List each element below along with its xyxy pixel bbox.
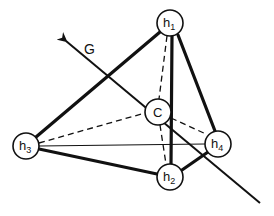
node-c: C bbox=[145, 99, 171, 125]
node-h3-label: h bbox=[19, 138, 26, 153]
edge-h3-h2 bbox=[39, 149, 157, 174]
edge-h2-h4 bbox=[182, 152, 208, 170]
edge-c-h4 bbox=[171, 118, 206, 134]
edge-h1-c bbox=[159, 36, 167, 99]
g-axis-label: G bbox=[84, 41, 95, 57]
edge-h1-h2 bbox=[171, 36, 172, 164]
diagram-canvas: G h1 C h3 bbox=[0, 0, 274, 216]
edge-h1-h3 bbox=[36, 32, 160, 137]
node-h2: h2 bbox=[157, 164, 183, 190]
node-h4-label: h bbox=[211, 136, 218, 151]
node-h4-subscript: 4 bbox=[218, 143, 223, 153]
thick-edges bbox=[36, 32, 215, 174]
node-h1: h1 bbox=[157, 10, 183, 36]
node-h3-subscript: 3 bbox=[26, 145, 31, 155]
tetrahedron-diagram: G h1 C h3 bbox=[0, 0, 274, 216]
node-h2-label: h bbox=[163, 169, 170, 184]
node-h2-subscript: 2 bbox=[170, 176, 175, 186]
node-h1-subscript: 1 bbox=[170, 22, 175, 32]
edge-h1-h4 bbox=[178, 35, 215, 131]
edge-h3-h4 bbox=[39, 144, 205, 146]
node-h3: h3 bbox=[13, 133, 39, 159]
edge-h3-c bbox=[39, 113, 145, 143]
node-c-label: C bbox=[153, 105, 162, 120]
node-h1-label: h bbox=[163, 15, 170, 30]
node-h4: h4 bbox=[205, 131, 231, 157]
